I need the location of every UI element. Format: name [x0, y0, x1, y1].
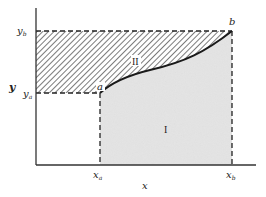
- region-label-ii: II: [132, 56, 139, 67]
- point-label-b: b: [229, 16, 235, 27]
- area-diagram: yb ya y xa xb x a b II I: [0, 0, 266, 197]
- region-label-i: I: [164, 124, 167, 135]
- tick-label-yb: yb: [16, 25, 27, 37]
- y-axis-label: y: [8, 81, 17, 94]
- tick-label-ya: ya: [22, 88, 33, 100]
- x-axis-label: x: [142, 180, 148, 191]
- tick-label-xb: xb: [226, 169, 236, 181]
- tick-label-xa: xa: [93, 169, 103, 181]
- point-label-a: a: [97, 81, 103, 92]
